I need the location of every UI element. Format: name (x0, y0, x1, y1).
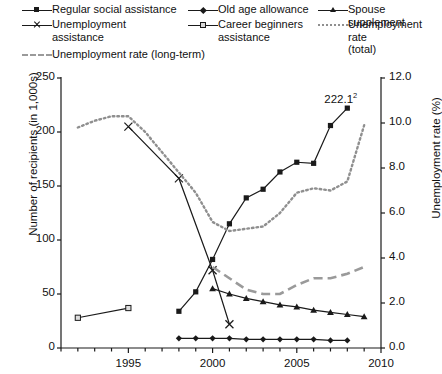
annotation-value: 222.1 (324, 93, 353, 105)
data-point-diamond (344, 337, 350, 343)
data-point-square (311, 161, 316, 166)
series-line (213, 289, 365, 317)
annotation-footnote-marker: 2 (353, 91, 357, 100)
data-point-square (277, 169, 282, 174)
data-point-diamond (311, 336, 317, 342)
series-regular-social-assistance (176, 106, 350, 314)
data-point-diamond (209, 335, 215, 341)
data-point-diamond (327, 337, 333, 343)
data-point-square (244, 195, 249, 200)
data-point-square (193, 289, 198, 294)
series-career-beginners-assistance (75, 305, 131, 320)
series-line (78, 308, 129, 318)
data-point-square (176, 309, 181, 314)
data-point-square (328, 123, 333, 128)
data-point-square-open (126, 305, 131, 310)
series-spouse-supplement (209, 285, 367, 319)
series-line (78, 116, 364, 231)
data-point-square (227, 221, 232, 226)
data-point-square (261, 187, 266, 192)
chart-figure: Regular social assistanceOld age allowan… (0, 0, 442, 374)
data-point-square (345, 106, 350, 111)
data-point-diamond (226, 335, 232, 341)
data-point-diamond (176, 335, 182, 341)
data-point-triangle (209, 285, 216, 291)
plot-area (0, 0, 442, 374)
data-point-diamond (277, 336, 283, 342)
series-old-age-allowance (176, 335, 351, 343)
series-line (128, 127, 229, 325)
data-point-diamond (193, 335, 199, 341)
series-unemployment-rate-long-term (213, 267, 365, 294)
data-point-annotation: 222.12 (324, 91, 357, 105)
series-unemployment-rate-total (78, 116, 364, 231)
series-line (179, 108, 347, 311)
data-point-square (294, 160, 299, 165)
data-point-diamond (294, 336, 300, 342)
data-point-square-open (75, 315, 80, 320)
data-point-diamond (260, 336, 266, 342)
data-point-diamond (243, 336, 249, 342)
series-line (213, 267, 365, 294)
data-point-square (210, 257, 215, 262)
